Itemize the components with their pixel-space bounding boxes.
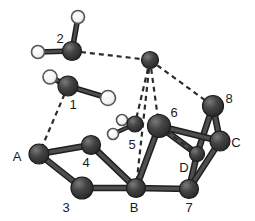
- atom-7: [180, 180, 199, 199]
- atom-label-3: 3: [62, 201, 69, 214]
- water-2-hydrogen-left: [32, 46, 45, 59]
- atom-B-sphere: [127, 179, 146, 198]
- atom-D: [190, 147, 205, 162]
- bridging-atom-hub: [142, 52, 159, 69]
- water-1-oxygen-sphere: [58, 76, 78, 96]
- atom-6-sphere: [148, 115, 171, 138]
- atom-3-sphere: [71, 177, 93, 199]
- molecular-structure-figure: 21865CA4D3B7: [0, 0, 255, 221]
- atom-label-c: C: [231, 136, 240, 149]
- hbond-hub-water5: [135, 60, 150, 124]
- structure-canvas: [0, 0, 255, 221]
- atom-label-7: 7: [185, 201, 192, 214]
- water-5-oxygen: [127, 116, 143, 132]
- atom-label-2: 2: [56, 32, 63, 45]
- atom-label-b: B: [130, 201, 139, 214]
- atom-D-sphere: [190, 147, 205, 162]
- water-1-oxygen: [58, 76, 78, 96]
- water-1-hydrogen-left: [43, 70, 57, 84]
- water-5-hydrogen-lower: [108, 129, 119, 140]
- atom-A: [29, 144, 49, 164]
- atom-B: [127, 179, 146, 198]
- water-2-hydrogen-top-sphere: [72, 11, 85, 24]
- atom-7-sphere: [180, 180, 199, 199]
- bridging-atom-hub-sphere: [142, 52, 159, 69]
- atom-3: [71, 177, 93, 199]
- atom-4-sphere: [82, 136, 101, 155]
- atom-4: [82, 136, 101, 155]
- atom-C-sphere: [210, 131, 230, 151]
- hbond-hub-8: [150, 60, 213, 106]
- water-1-hydrogen-right-sphere: [101, 91, 116, 106]
- atom-label-5: 5: [128, 138, 135, 151]
- water-5-oxygen-sphere: [127, 116, 143, 132]
- atom-6: [148, 115, 171, 138]
- hbond-water1-A: [39, 86, 68, 154]
- atom-label-a: A: [13, 150, 22, 163]
- water-2-hydrogen-left-sphere: [32, 46, 45, 59]
- bond-layer: [38, 17, 220, 189]
- water-5-hydrogen-upper: [117, 115, 128, 126]
- atom-label-8: 8: [225, 92, 232, 105]
- water-1-hydrogen-right: [101, 91, 116, 106]
- atom-A-sphere: [29, 144, 49, 164]
- water-2-oxygen: [63, 42, 82, 61]
- atom-8: [203, 96, 224, 117]
- atom-label-6: 6: [170, 106, 177, 119]
- hbond-water2-hub: [72, 51, 150, 60]
- atom-label-1: 1: [69, 98, 76, 111]
- water-5-hydrogen-upper-sphere: [117, 115, 128, 126]
- atom-label-4: 4: [82, 156, 89, 169]
- water-5-hydrogen-lower-sphere: [108, 129, 119, 140]
- atom-C: [210, 131, 230, 151]
- water-2-oxygen-sphere: [63, 42, 82, 61]
- atom-label-d: D: [179, 161, 188, 174]
- water-1-hydrogen-left-sphere: [43, 70, 57, 84]
- atom-8-sphere: [203, 96, 224, 117]
- water-2-hydrogen-top: [72, 11, 85, 24]
